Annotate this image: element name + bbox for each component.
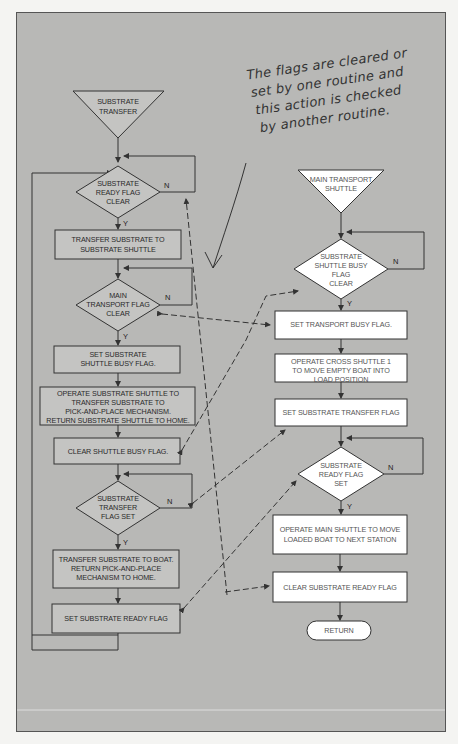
right-end-terminator: RETURN	[307, 621, 371, 640]
svg-text:OPERATE MAIN SHUTTLE TO MOVE: OPERATE MAIN SHUTTLE TO MOVE	[280, 525, 401, 534]
svg-text:Y: Y	[347, 299, 352, 308]
svg-text:N: N	[393, 257, 398, 266]
svg-text:RETURN SUBSTRATE SHUTTLE TO HO: RETURN SUBSTRATE SHUTTLE TO HOME.	[46, 416, 189, 425]
svg-text:TRANSFER: TRANSFER	[99, 503, 137, 512]
svg-text:FLAG: FLAG	[332, 270, 351, 279]
svg-text:SET SUBSTRATE READY FLAG: SET SUBSTRATE READY FLAG	[64, 614, 168, 623]
svg-text:MECHANISM TO HOME.: MECHANISM TO HOME.	[76, 573, 156, 582]
left-decision-main-transport-flag-clear: MAIN TRANSPORT FLAG CLEAR N Y	[76, 279, 170, 341]
svg-text:OPERATE CROSS SHUTTLE 1: OPERATE CROSS SHUTTLE 1	[291, 357, 391, 366]
svg-text:SUBSTRATE: SUBSTRATE	[97, 97, 139, 106]
svg-text:CLEAR SUBSTRATE READY FLAG: CLEAR SUBSTRATE READY FLAG	[283, 583, 397, 592]
svg-text:TRANSFER SUBSTRATE TO: TRANSFER SUBSTRATE TO	[72, 235, 165, 244]
svg-text:Y: Y	[347, 502, 352, 511]
left-step-transfer-to-shuttle: TRANSFER SUBSTRATE TO SUBSTRATE SHUTTLE	[55, 230, 181, 259]
right-step-clear-ready-flag: CLEAR SUBSTRATE READY FLAG	[273, 572, 407, 602]
annotation-note: The flags are cleared or set by one rout…	[245, 45, 416, 136]
left-step-set-shuttle-busy: SET SUBSTRATE SHUTTLE BUSY FLAG.	[54, 346, 180, 373]
svg-text:READY FLAG: READY FLAG	[96, 188, 141, 197]
svg-text:SHUTTLE BUSY: SHUTTLE BUSY	[314, 261, 367, 270]
svg-text:RETURN: RETURN	[324, 626, 353, 635]
left-step-operate-substrate-shuttle: OPERATE SUBSTRATE SHUTTLE TO TRANSFER SU…	[40, 387, 195, 425]
svg-text:N: N	[165, 293, 170, 302]
svg-text:SUBSTRATE: SUBSTRATE	[320, 252, 362, 261]
right-decision-substrate-ready-set: SUBSTRATE READY FLAG SET N Y	[298, 447, 393, 511]
svg-text:SHUTTLE BUSY FLAG.: SHUTTLE BUSY FLAG.	[80, 359, 155, 368]
svg-text:N: N	[164, 181, 169, 190]
svg-text:RETURN PICK-AND-PLACE: RETURN PICK-AND-PLACE	[71, 564, 161, 573]
svg-text:TRANSPORT FLAG: TRANSPORT FLAG	[86, 300, 150, 309]
svg-text:TRANSFER SUBSTRATE TO: TRANSFER SUBSTRATE TO	[72, 398, 165, 407]
svg-text:SET TRANSPORT BUSY FLAG.: SET TRANSPORT BUSY FLAG.	[290, 320, 392, 329]
svg-text:PICK-AND-PLACE MECHANISM.: PICK-AND-PLACE MECHANISM.	[65, 407, 171, 416]
svg-text:READY FLAG: READY FLAG	[319, 470, 364, 479]
left-decision-substrate-transfer-flag-set: SUBSTRATE TRANSFER FLAG SET N Y	[76, 481, 172, 547]
svg-text:SET: SET	[334, 479, 348, 488]
svg-text:Y: Y	[123, 219, 128, 228]
svg-text:SUBSTRATE: SUBSTRATE	[97, 179, 139, 188]
svg-text:SHUTTLE: SHUTTLE	[325, 184, 357, 193]
left-step-clear-shuttle-busy: CLEAR SHUTTLE BUSY FLAG.	[54, 438, 180, 464]
right-step-set-transfer-flag: SET SUBSTRATE TRANSFER FLAG	[275, 399, 407, 426]
dash-transfer-flag	[193, 430, 285, 503]
svg-text:Y: Y	[123, 538, 128, 547]
right-step-set-transport-busy: SET TRANSPORT BUSY FLAG.	[275, 311, 407, 339]
svg-text:N: N	[388, 463, 393, 472]
left-step-transfer-to-boat: TRANSFER SUBSTRATE TO BOAT. RETURN PICK-…	[53, 550, 179, 588]
svg-text:SUBSTRATE: SUBSTRATE	[97, 494, 139, 503]
flowchart: The flags are cleared or set by one rout…	[0, 0, 458, 744]
svg-text:SUBSTRATE SHUTTLE: SUBSTRATE SHUTTLE	[80, 245, 156, 254]
svg-text:TO MOVE EMPTY BOAT INTO: TO MOVE EMPTY BOAT INTO	[292, 366, 390, 375]
svg-text:TRANSFER SUBSTRATE TO BOAT.: TRANSFER SUBSTRATE TO BOAT.	[59, 555, 174, 564]
svg-text:TRANSFER: TRANSFER	[99, 107, 137, 116]
svg-text:CLEAR: CLEAR	[106, 197, 129, 206]
svg-text:CLEAR: CLEAR	[329, 279, 352, 288]
svg-text:CLEAR: CLEAR	[106, 309, 129, 318]
svg-text:SUBSTRATE: SUBSTRATE	[320, 461, 362, 470]
left-start-terminator: SUBSTRATE TRANSFER	[73, 91, 164, 138]
svg-text:MAIN TRANSPORT: MAIN TRANSPORT	[310, 175, 373, 184]
svg-text:SET SUBSTRATE: SET SUBSTRATE	[89, 350, 146, 359]
svg-text:CLEAR SHUTTLE BUSY FLAG.: CLEAR SHUTTLE BUSY FLAG.	[68, 447, 169, 456]
left-decision-substrate-ready-flag-clear: SUBSTRATE READY FLAG CLEAR N Y	[76, 166, 169, 228]
svg-text:SET SUBSTRATE TRANSFER FLAG: SET SUBSTRATE TRANSFER FLAG	[282, 408, 400, 417]
right-step-operate-main-shuttle: OPERATE MAIN SHUTTLE TO MOVE LOADED BOAT…	[273, 515, 407, 554]
svg-text:OPERATE SUBSTRATE SHUTTLE TO: OPERATE SUBSTRATE SHUTTLE TO	[57, 389, 180, 398]
svg-text:FLAG SET: FLAG SET	[101, 512, 136, 521]
svg-text:MAIN: MAIN	[109, 291, 127, 300]
svg-text:N: N	[167, 497, 172, 506]
right-start-terminator: MAIN TRANSPORT SHUTTLE	[298, 170, 384, 213]
annotation-pointer-icon	[213, 163, 246, 268]
right-decision-shuttle-busy-clear: SUBSTRATE SHUTTLE BUSY FLAG CLEAR N Y	[294, 239, 398, 308]
left-step-set-substrate-ready: SET SUBSTRATE READY FLAG	[52, 604, 180, 633]
svg-text:Y: Y	[123, 332, 128, 341]
svg-text:LOADED BOAT TO NEXT STATION: LOADED BOAT TO NEXT STATION	[284, 535, 397, 544]
right-step-operate-cross-shuttle: OPERATE CROSS SHUTTLE 1 TO MOVE EMPTY BO…	[275, 354, 407, 384]
